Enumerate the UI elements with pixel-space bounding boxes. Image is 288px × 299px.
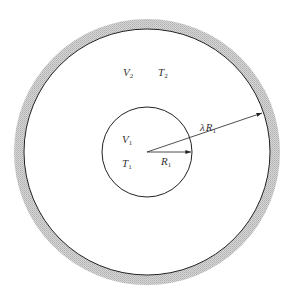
concentric-spheres-diagram: V2 T2 V1 T1 R1 λR1	[0, 0, 288, 299]
